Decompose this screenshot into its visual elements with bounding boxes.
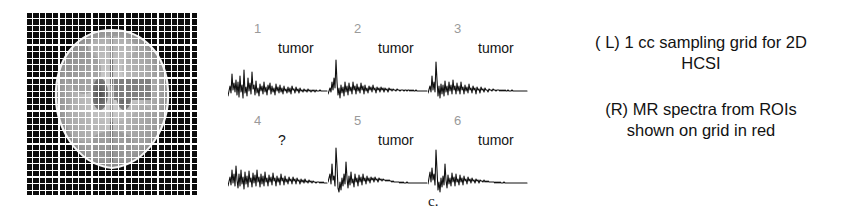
spectrum-trace	[428, 52, 528, 102]
legend-line: shown on grid in red	[546, 120, 856, 141]
spectrum-index-label: 3	[454, 22, 461, 35]
spectrum-cell-6: 6 tumor	[428, 106, 528, 196]
spectrum-cell-3: 3 tumor	[428, 14, 528, 104]
spectrum-cell-5: 5 tumor	[328, 106, 428, 196]
subfigure-label: c.	[428, 193, 438, 210]
legend-entry-right-panel: (R) MR spectra from ROIs shown on grid i…	[546, 99, 856, 141]
spectrum-trace	[228, 144, 328, 194]
spectrum-trace	[228, 52, 328, 102]
spectrum-cell-1: 1 tumor	[228, 14, 328, 104]
spectrum-index-label: 1	[254, 22, 261, 35]
spectrum-cell-2: 2 tumor	[328, 14, 428, 104]
spectrum-trace	[428, 144, 528, 194]
legend-line: (R) MR spectra from ROIs	[546, 99, 856, 120]
sampling-grid-panel	[26, 12, 198, 195]
spectrum-trace	[328, 144, 428, 194]
spectrum-index-label: 6	[454, 114, 461, 127]
legend-block: ( L) 1 cc sampling grid for 2D HCSI (R) …	[546, 32, 856, 141]
legend-line: HCSI	[546, 53, 856, 74]
spectrum-index-label: 2	[354, 22, 361, 35]
spectrum-cell-4: 4 ?	[228, 106, 328, 196]
legend-entry-left-panel: ( L) 1 cc sampling grid for 2D HCSI	[546, 32, 856, 74]
spectrum-index-label: 5	[354, 114, 361, 127]
sampling-grid-overlay	[26, 12, 198, 195]
legend-line: ( L) 1 cc sampling grid for 2D	[546, 32, 856, 53]
spectrum-index-label: 4	[254, 114, 261, 127]
spectrum-trace	[328, 52, 428, 102]
mr-spectra-panel: 1 tumor 2 tumor 3 tumor 4 ? 5 tumor 6	[228, 14, 528, 194]
